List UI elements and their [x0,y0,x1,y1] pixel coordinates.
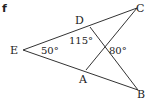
angle-label-intersection: 80° [109,45,127,56]
geometry-diagram: f E D C A B 50° 115° 80° [0,0,146,98]
angle-label-D: 115° [69,35,93,46]
angle-label-E: 50° [41,45,59,56]
point-label-A: A [78,73,88,86]
point-label-E: E [10,44,18,57]
point-label-B: B [137,88,145,98]
point-label-D: D [75,14,84,27]
point-label-C: C [136,2,144,15]
part-label: f [2,2,7,15]
